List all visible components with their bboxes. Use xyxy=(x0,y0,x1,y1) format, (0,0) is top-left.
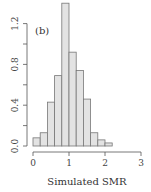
y-tick-label: 1.2 xyxy=(10,16,20,30)
histogram-bar-8 xyxy=(91,133,98,146)
histogram-bar-4 xyxy=(62,3,69,146)
x-tick-label: 2 xyxy=(102,158,108,168)
x-tick-label: 0 xyxy=(30,158,36,168)
histogram-bar-6 xyxy=(76,71,83,146)
histogram-bar-5 xyxy=(69,52,76,146)
y-tick-label: 0.4 xyxy=(10,98,20,113)
x-axis-title: Simulated SMR xyxy=(47,176,127,187)
x-tick-label: 3 xyxy=(138,158,144,168)
y-tick-label: 0.8 xyxy=(10,57,20,72)
histogram-bar-1 xyxy=(40,133,47,146)
x-tick-label: 1 xyxy=(66,158,72,168)
histogram-bar-2 xyxy=(47,102,54,146)
y-axis: 0.00.40.81.2 xyxy=(10,16,27,153)
histogram-bar-0 xyxy=(33,138,40,146)
histogram-bar-10 xyxy=(105,143,112,146)
histogram-bar-7 xyxy=(83,99,90,146)
panel-label: (b) xyxy=(35,25,49,36)
histogram-chart: 0.00.40.81.2 0123 (b) Simulated SMR xyxy=(0,0,151,192)
histogram-bar-9 xyxy=(98,140,105,146)
x-axis: 0123 xyxy=(30,152,144,168)
histogram-bar-3 xyxy=(55,76,62,146)
y-tick-label: 0.0 xyxy=(10,139,20,154)
